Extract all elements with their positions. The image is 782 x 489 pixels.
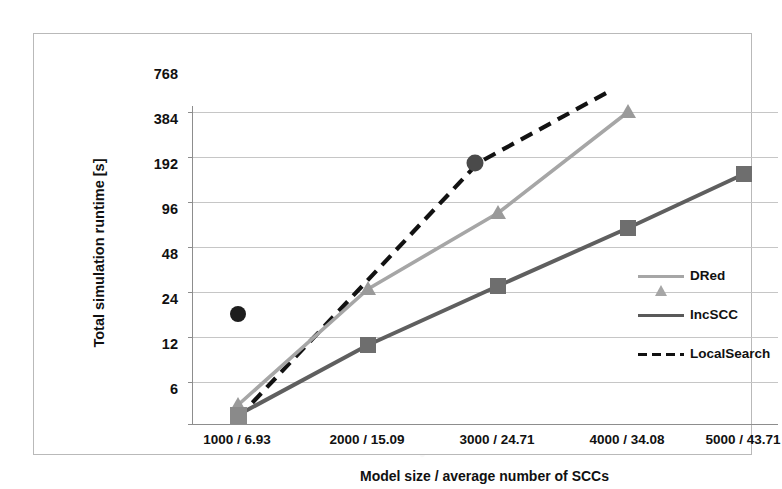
x-tick-label-2: 2000 / 15.09 — [292, 432, 442, 447]
chart-figure: Total simulation runtime [s] 768 384 192… — [33, 33, 752, 455]
incscc-marker-1 — [230, 407, 247, 424]
legend-label-localsearch: LocalSearch — [690, 346, 770, 361]
y-axis-title-text: Total simulation runtime [s] — [86, 122, 112, 384]
dred-line — [238, 112, 628, 405]
x-tick-label-3: 3000 / 24.71 — [422, 432, 572, 447]
incscc-marker-4 — [620, 220, 636, 236]
legend-item-incscc[interactable]: IncSCC — [638, 295, 782, 334]
series-dred — [230, 104, 636, 411]
x-axis-title: Model size / average number of SCCs — [192, 468, 777, 484]
incscc-marker-3 — [490, 278, 506, 294]
legend: DRed IncSCC LocalSearch — [638, 256, 782, 373]
series-localsearch — [230, 92, 608, 418]
legend-label-incscc: IncSCC — [690, 307, 738, 322]
y-tick-label-768: 768 — [122, 67, 178, 82]
y-tick-label-384: 384 — [122, 112, 178, 127]
y-tick-label-24: 24 — [122, 292, 178, 307]
y-axis-title: Total simulation runtime [s] — [86, 122, 112, 384]
y-tick-label-12: 12 — [122, 337, 178, 352]
y-tick-label-96: 96 — [122, 202, 178, 217]
x-tick-label-5: 5000 / 43.71 — [668, 432, 782, 447]
localsearch-point-2 — [467, 155, 484, 172]
incscc-marker-2 — [360, 337, 376, 353]
circle-marker-icon — [638, 346, 684, 362]
square-marker-icon — [638, 307, 684, 323]
triangle-marker-icon — [638, 268, 684, 284]
y-tick-label-192: 192 — [122, 157, 178, 172]
y-tickmark-6 — [188, 424, 193, 425]
x-tick-label-1: 1000 / 6.93 — [162, 432, 312, 447]
legend-item-localsearch[interactable]: LocalSearch — [638, 334, 782, 373]
legend-label-dred: DRed — [690, 268, 725, 283]
dred-marker-4 — [620, 104, 636, 118]
localsearch-point-1 — [230, 306, 246, 322]
legend-item-dred[interactable]: DRed — [638, 256, 782, 295]
y-tick-label-6: 6 — [122, 382, 178, 397]
incscc-marker-5 — [736, 166, 752, 182]
y-tick-label-48: 48 — [122, 247, 178, 262]
